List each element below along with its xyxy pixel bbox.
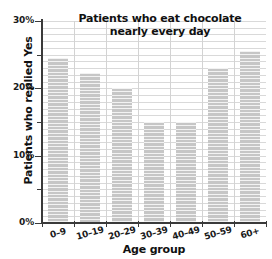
bar-slot (170, 21, 202, 223)
y-axis-minor-tick (37, 55, 42, 56)
bar-0-9 (48, 58, 68, 223)
bar-slot (202, 21, 234, 223)
chart-title: Patients who eat chocolate nearly every … (56, 12, 264, 38)
y-axis-tick-label: 0% (0, 217, 34, 227)
y-axis-tick (35, 88, 42, 89)
chart-title-line-2: nearly every day (56, 25, 264, 38)
bar-slot (42, 21, 74, 223)
plot-area (42, 21, 266, 223)
bar-40-49 (176, 122, 196, 223)
chart-title-line-1: Patients who eat chocolate (56, 12, 264, 25)
y-axis-minor-tick (37, 122, 42, 123)
y-axis-tick (35, 21, 42, 22)
y-axis-title: Patients who replied Yes (22, 26, 35, 196)
bar-slot (106, 21, 138, 223)
bar-slot (234, 21, 266, 223)
bar-60-plus (240, 51, 260, 223)
bar-20-29 (112, 88, 132, 223)
bar-series (42, 21, 266, 223)
bar-50-59 (208, 68, 228, 223)
chart-figure: Patients who eat chocolate nearly every … (0, 0, 272, 259)
y-axis-minor-tick (37, 189, 42, 190)
bar-10-19 (80, 73, 100, 223)
x-axis-tick (42, 221, 43, 227)
bar-30-39 (144, 122, 164, 223)
y-axis-tick (35, 223, 42, 224)
bar-slot (138, 21, 170, 223)
x-axis-title: Age group (42, 243, 266, 256)
bar-slot (74, 21, 106, 223)
y-axis-tick-label: 30% (0, 15, 34, 25)
y-axis-tick (35, 156, 42, 157)
